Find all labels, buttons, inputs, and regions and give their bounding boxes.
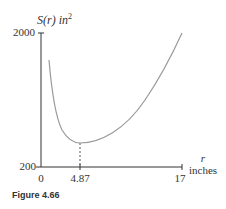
x-tick-label-0: 0	[38, 172, 44, 184]
x-tick-label-17: 17	[175, 172, 187, 184]
figure-caption: Figure 4.66	[12, 190, 60, 200]
y-tick-label-2000: 2000	[13, 26, 36, 38]
chart: S(r) in2 2000 200 0 4.87 17 r inches Fig…	[0, 0, 226, 209]
x-axis-label-unit: inches	[189, 164, 217, 176]
y-axis-label: S(r) in2	[37, 12, 72, 27]
x-axis-label-var: r	[201, 152, 206, 164]
y-tick-label-200: 200	[20, 160, 37, 172]
s-of-r-curve	[49, 33, 182, 143]
x-tick-label-4.87: 4.87	[70, 172, 90, 184]
